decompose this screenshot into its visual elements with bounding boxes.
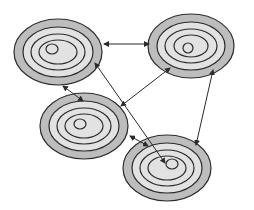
- concentric-ellipse-network-diagram: [0, 0, 254, 210]
- arrow-top-right-to-bottom-right: [196, 70, 213, 145]
- core-circle: [166, 159, 178, 169]
- core-circle: [46, 44, 58, 54]
- node-top-left: [14, 19, 102, 85]
- inner-ring: [39, 40, 77, 64]
- node-bottom-right: [123, 135, 211, 201]
- arrow-top-right-to-middle-left: [121, 68, 170, 106]
- node-top-right: [148, 14, 234, 78]
- inner-ring: [148, 156, 186, 180]
- node-middle-left: [40, 93, 128, 159]
- core-circle: [183, 43, 193, 53]
- nodes-layer: [14, 14, 234, 201]
- core-circle: [74, 119, 86, 129]
